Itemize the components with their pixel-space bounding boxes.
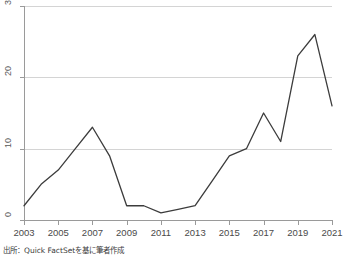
x-axis-tick-label: 2021 xyxy=(321,227,342,238)
y-axis-tick-label: 20 xyxy=(2,65,20,77)
x-axis-tick-label: 2007 xyxy=(82,227,103,238)
x-axis-tick-label: 2019 xyxy=(287,227,308,238)
y-axis-tick-label: 10 xyxy=(2,137,20,149)
y-axis-tick-label: 0 xyxy=(2,208,20,220)
x-axis-tick-label: 2005 xyxy=(48,227,69,238)
x-axis-tick xyxy=(229,220,230,225)
x-axis-tick xyxy=(161,220,162,225)
data-series-svg xyxy=(24,6,332,220)
x-axis-tick-label: 2003 xyxy=(13,227,34,238)
x-axis-tick xyxy=(298,220,299,225)
plot-area xyxy=(24,6,332,220)
x-axis-tick xyxy=(195,220,196,225)
x-axis-tick-label: 2009 xyxy=(116,227,137,238)
x-axis-tick-label: 2017 xyxy=(253,227,274,238)
x-axis-line xyxy=(24,220,332,221)
x-axis-tick xyxy=(92,220,93,225)
data-series-line xyxy=(24,35,332,213)
x-axis-tick xyxy=(332,220,333,225)
x-axis-tick-label: 2011 xyxy=(151,227,171,238)
y-axis-tick-label: 30 xyxy=(2,0,20,6)
x-axis-tick xyxy=(264,220,265,225)
source-note: 出所：Quick FactSetを基に筆者作成 xyxy=(3,244,124,255)
x-axis-tick-label: 2015 xyxy=(219,227,240,238)
x-axis-tick-label: 2013 xyxy=(185,227,206,238)
x-axis-tick xyxy=(58,220,59,225)
x-axis-tick xyxy=(127,220,128,225)
x-axis-tick xyxy=(24,220,25,225)
y-axis-tick-labels: 0102030 xyxy=(0,0,24,226)
